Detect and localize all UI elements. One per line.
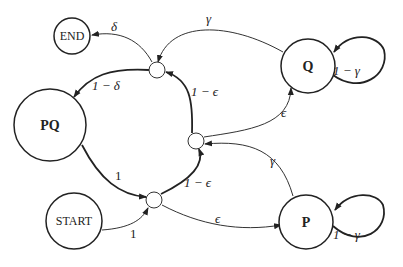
label-junction-bottom-to-junction-mid: 1 − ϵ — [184, 175, 212, 190]
node-q: Q — [281, 39, 335, 93]
label-junction-top-to-pq: 1 − δ — [92, 78, 121, 93]
node-p-label: P — [302, 215, 311, 230]
node-start-label: START — [56, 214, 93, 228]
junction-top — [149, 62, 165, 78]
edge-junction-bottom-to-p — [162, 205, 281, 228]
label-p-to-junction-mid: γ — [270, 153, 276, 168]
edge-junction-top-to-end — [92, 34, 152, 62]
junction-bottom — [146, 192, 162, 208]
label-start-to-junction-bottom: 1 — [130, 226, 137, 241]
node-pq: PQ — [14, 89, 86, 161]
node-start: START — [46, 193, 102, 249]
node-end-label: END — [60, 29, 85, 43]
label-q-to-junction-top: γ — [206, 11, 212, 26]
label-junction-bottom-to-p: ϵ — [215, 211, 221, 226]
edge-p-to-junction-mid — [205, 143, 293, 196]
edge-pq-to-junction-bottom — [82, 145, 146, 197]
node-end: END — [54, 18, 90, 54]
label-p-self-loop: 1 − γ — [333, 227, 361, 242]
label-junction-top-to-end: δ — [111, 19, 118, 34]
label-q-self-loop: 1 − γ — [333, 63, 361, 78]
node-q-label: Q — [303, 59, 314, 74]
state-diagram: END PQ START Q P δ 1 − δ γ 1 − γ 1 − ϵ ϵ… — [0, 0, 403, 267]
label-junction-mid-to-q: ϵ — [281, 105, 287, 120]
junction-mid — [188, 133, 204, 149]
label-pq-to-junction-bottom: 1 — [115, 168, 122, 183]
edge-junction-mid-to-junction-top — [166, 72, 192, 133]
node-p: P — [279, 195, 333, 249]
label-junction-mid-to-junction-top: 1 − ϵ — [191, 84, 219, 99]
edge-start-to-junction-bottom — [102, 208, 148, 230]
node-pq-label: PQ — [40, 118, 60, 133]
edge-q-to-junction-top — [158, 30, 283, 62]
